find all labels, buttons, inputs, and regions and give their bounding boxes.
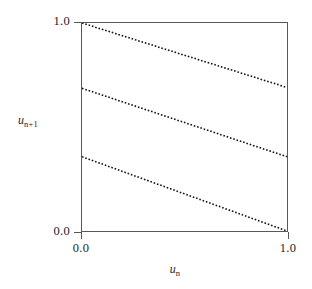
x-axis-title: un (0, 262, 312, 278)
series-line-branch-middle (82, 88, 287, 156)
y-tick-mark-bottom (74, 232, 81, 233)
figure-canvas: 1.0 0.0 0.0 1.0 un+1 un (0, 0, 312, 289)
y-tick-label-top: 1.0 (38, 15, 70, 28)
x-tick-mark-right (288, 232, 289, 239)
x-tick-label-left: 0.0 (61, 242, 101, 255)
y-axis-title: un+1 (18, 113, 38, 129)
series-line-branch-upper (82, 23, 287, 87)
plot-area (81, 22, 288, 232)
series-line-branch-lower (82, 157, 287, 231)
x-axis-title-subscript: n (176, 268, 180, 278)
series-group (82, 23, 287, 231)
data-lines-svg (82, 23, 287, 231)
y-tick-mark-top (74, 22, 81, 23)
x-tick-mark-left (81, 232, 82, 239)
y-tick-label-bottom: 0.0 (38, 225, 70, 238)
x-tick-label-right: 1.0 (268, 242, 308, 255)
y-axis-title-subscript: n+1 (24, 119, 38, 129)
